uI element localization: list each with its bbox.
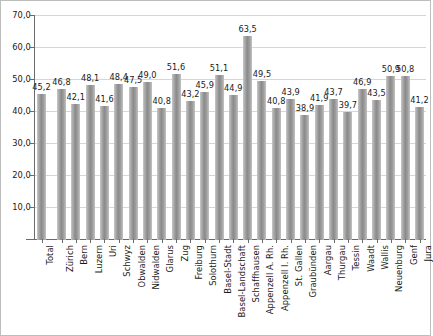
x-category-label: Jura: [423, 245, 433, 262]
x-category-label: Wallis: [380, 245, 390, 270]
x-tick-mark: [76, 239, 77, 243]
x-tick-mark: [420, 239, 421, 243]
x-tick-mark: [276, 239, 277, 243]
x-category-label: Nidwalden: [151, 245, 161, 289]
bar-value-label: 43,2: [181, 89, 199, 99]
x-category-label: Appenzell I. Rh.: [280, 245, 290, 311]
bar-value-label: 51,6: [167, 62, 185, 72]
bar-slot: 47,5: [129, 15, 138, 240]
x-axis-ticks: [34, 239, 426, 244]
x-category-label: Waadt: [366, 245, 376, 272]
x-tick-mark: [219, 239, 220, 243]
bar: [157, 108, 166, 240]
x-category-label: Total: [45, 245, 55, 265]
bar-slot: 42,1: [71, 15, 80, 240]
x-axis-labels: TotalZürichBernLuzernUriSchwyzObwaldenNi…: [34, 245, 426, 336]
x-category-label: Solothurn: [208, 245, 218, 286]
bar-value-label: 63,5: [238, 24, 256, 34]
x-tick-mark: [233, 239, 234, 243]
bar-value-label: 44,9: [224, 83, 242, 93]
x-tick-mark: [319, 239, 320, 243]
bar: [215, 75, 224, 240]
x-tick-mark: [391, 239, 392, 243]
bar-slot: 50,8: [401, 15, 410, 240]
x-category-label: Basel-Landschaft: [237, 245, 247, 317]
x-tick-mark: [133, 239, 134, 243]
bar: [329, 99, 338, 240]
bar: [57, 89, 66, 240]
x-tick-mark: [190, 239, 191, 243]
x-category-label: Graubünden: [308, 245, 318, 298]
x-category-label: Obwalden: [137, 245, 147, 287]
bar-slot: 43,2: [186, 15, 195, 240]
bar-slot: 39,7: [343, 15, 352, 240]
x-category-label: Schwyz: [122, 245, 132, 277]
bar: [143, 82, 152, 240]
bar-value-label: 40,8: [153, 96, 171, 106]
x-category-label: Bern: [79, 245, 89, 265]
x-tick-mark: [90, 239, 91, 243]
bar-slot: 46,8: [57, 15, 66, 240]
bar-slot: 41,9: [315, 15, 324, 240]
x-tick-mark: [305, 239, 306, 243]
x-tick-mark: [104, 239, 105, 243]
x-tick-mark: [348, 239, 349, 243]
bar-slot: 43,9: [286, 15, 295, 240]
bar-value-label: 39,7: [339, 100, 357, 110]
y-axis-labels: 70,060,050,040,030,020,010,0-: [1, 1, 31, 336]
bar: [243, 36, 252, 240]
bar: [343, 112, 352, 240]
bar: [386, 76, 395, 240]
bar: [229, 95, 238, 240]
bar: [186, 101, 195, 240]
bar: [300, 115, 309, 240]
bar: [272, 108, 281, 240]
x-category-label: Aargau: [323, 245, 333, 275]
x-category-label: St. Gallen: [294, 245, 304, 286]
bar-slot: 43,7: [329, 15, 338, 240]
bar: [257, 81, 266, 240]
x-category-label: Glarus: [165, 245, 175, 272]
x-tick-mark: [205, 239, 206, 243]
bar-value-label: 43,9: [281, 87, 299, 97]
bar: [100, 106, 109, 240]
bar-value-label: 48,1: [81, 73, 99, 83]
x-category-label: Appenzell A. Rh.: [265, 245, 275, 314]
bar-value-label: 49,5: [253, 69, 271, 79]
x-category-label: Schaffhausen: [251, 245, 261, 302]
x-tick-mark: [162, 239, 163, 243]
x-tick-mark: [119, 239, 120, 243]
x-tick-mark: [248, 239, 249, 243]
bar: [401, 76, 410, 240]
bar: [315, 105, 324, 240]
bar-slot: 48,1: [86, 15, 95, 240]
bar-value-label: 41,2: [410, 95, 428, 105]
bar-value-label: 43,7: [324, 87, 342, 97]
bar: [200, 92, 209, 240]
bar-slot: 63,5: [243, 15, 252, 240]
bar-value-label: 46,8: [52, 77, 70, 87]
bar-value-label: 49,0: [138, 70, 156, 80]
bar-value-label: 45,9: [195, 80, 213, 90]
bar: [129, 87, 138, 240]
bar: [37, 94, 46, 240]
x-category-label: Zürich: [65, 245, 75, 272]
x-tick-mark: [62, 239, 63, 243]
bar-slot: 41,2: [415, 15, 424, 240]
x-tick-mark: [291, 239, 292, 243]
x-tick-mark: [362, 239, 363, 243]
bar: [172, 74, 181, 240]
bar-slot: 40,8: [157, 15, 166, 240]
bar-slot: 49,5: [257, 15, 266, 240]
bar: [372, 100, 381, 240]
bar-slot: 41,6: [100, 15, 109, 240]
bar: [286, 99, 295, 240]
bar-value-label: 46,9: [353, 77, 371, 87]
x-tick-mark: [176, 239, 177, 243]
x-category-label: Genf: [409, 245, 419, 265]
bar: [415, 107, 424, 240]
bar-value-label: 50,8: [396, 64, 414, 74]
x-tick-mark: [42, 239, 43, 243]
bar-value-label: 41,6: [95, 94, 113, 104]
x-tick-mark: [147, 239, 148, 243]
